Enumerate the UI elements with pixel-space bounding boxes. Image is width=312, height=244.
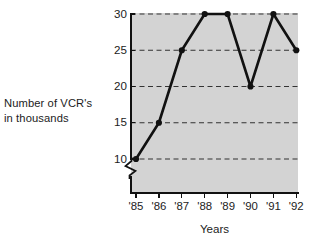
y-axis-title-line-2: in thousands bbox=[4, 111, 106, 126]
x-tick-label-87: '87 bbox=[170, 200, 194, 213]
x-tick-label-89: '89 bbox=[216, 200, 240, 213]
x-tick-label-88: '88 bbox=[193, 200, 217, 213]
y-tick-label-20: 20 bbox=[105, 80, 127, 92]
data-point-87 bbox=[179, 47, 185, 53]
y-tick-label-25: 25 bbox=[105, 44, 127, 56]
y-tick-label-30: 30 bbox=[105, 8, 127, 20]
y-tick-mark-15 bbox=[130, 122, 135, 123]
x-tick-label-85: '85 bbox=[124, 200, 148, 213]
x-tick-label-86: '86 bbox=[147, 200, 171, 213]
y-tick-mark-20 bbox=[130, 86, 135, 87]
data-point-88 bbox=[202, 11, 208, 17]
x-tick-label-91: '91 bbox=[261, 200, 285, 213]
vcr-line-chart: Number of VCR's in thousands 3025201510 … bbox=[0, 0, 312, 244]
x-tick-mark-85 bbox=[135, 193, 136, 198]
x-axis-title: Years bbox=[131, 222, 298, 235]
plot-canvas bbox=[131, 13, 298, 193]
y-tick-mark-25 bbox=[130, 50, 135, 51]
y-axis-title-line-1: Number of VCR's bbox=[4, 96, 106, 111]
x-tick-label-92: '92 bbox=[284, 200, 308, 213]
x-tick-mark-90 bbox=[250, 193, 251, 198]
data-point-92 bbox=[293, 47, 299, 53]
x-tick-mark-87 bbox=[181, 193, 182, 198]
x-tick-mark-89 bbox=[227, 193, 228, 198]
x-tick-mark-91 bbox=[273, 193, 274, 198]
data-point-86 bbox=[156, 120, 162, 126]
y-tick-mark-30 bbox=[130, 13, 135, 14]
y-tick-mark-10 bbox=[130, 158, 135, 159]
gridlines bbox=[131, 14, 298, 159]
data-point-89 bbox=[225, 11, 231, 17]
x-tick-mark-88 bbox=[204, 193, 205, 198]
data-point-90 bbox=[247, 83, 253, 89]
data-point-91 bbox=[270, 11, 276, 17]
x-tick-mark-92 bbox=[296, 193, 297, 198]
y-tick-label-15: 15 bbox=[105, 116, 127, 128]
y-axis-title: Number of VCR's in thousands bbox=[4, 96, 106, 126]
y-axis-break-icon bbox=[123, 157, 139, 179]
x-tick-label-90: '90 bbox=[239, 200, 263, 213]
x-tick-mark-86 bbox=[158, 193, 159, 198]
plot-area bbox=[131, 13, 298, 193]
